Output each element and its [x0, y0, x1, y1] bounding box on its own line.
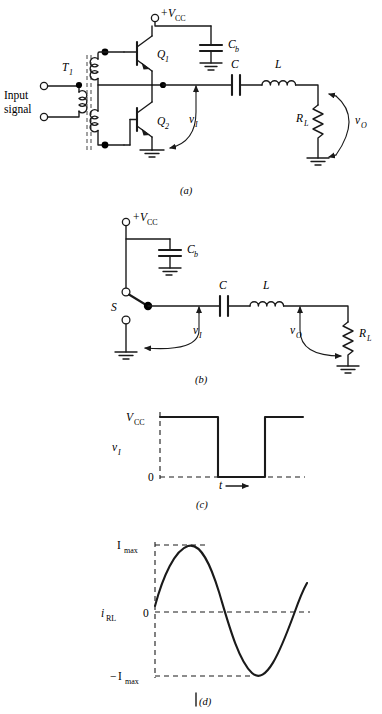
rl-label-a-subscript: L: [303, 119, 309, 128]
vi-arrow-curve-b: [145, 313, 199, 349]
panel-c-y-axis-label-subscript: I: [117, 448, 121, 457]
input-wire-bottom: [48, 111, 79, 117]
panel-c-x-axis-label: t: [219, 479, 223, 491]
vcc-label-a-subscript: CC: [175, 14, 186, 23]
panel-d-imax-tick-label: I: [117, 539, 121, 551]
panel-d: I max 0 − I max i RL (d): [101, 539, 310, 708]
secondary-lower-bottom-lead: [98, 131, 124, 146]
panel-c-waveform: [160, 417, 303, 477]
vo-arrow-bottom-a: [329, 155, 336, 157]
vo-arrow-top-a: [329, 94, 336, 96]
panel-d-y-axis-label-subscript: RL: [106, 614, 116, 623]
rl-ground-symbol-b: [337, 366, 359, 373]
input-signal-line2: signal: [4, 103, 31, 116]
inductor-a: [262, 81, 296, 85]
switch-terminal-lower[interactable]: [122, 316, 130, 324]
bypass-capacitor-b: [159, 239, 181, 275]
panel-b: + V CC C b S: [111, 211, 372, 386]
q2-label-subscript: 2: [165, 122, 169, 131]
q2-ground-symbol: [140, 150, 164, 157]
panel-d-y-axis-label: i: [101, 607, 104, 619]
panel-c: V CC 0 v I t (c): [112, 411, 305, 511]
panel-a: Input signal T 1: [4, 7, 367, 197]
q1-emitter-arrow: [142, 63, 151, 70]
panel-c-zero-tick-label: 0: [148, 471, 154, 483]
panel-d-neg-imax-tick-subscript: max: [125, 677, 139, 686]
switch-label: S: [111, 301, 117, 313]
input-terminal-top[interactable]: [40, 82, 47, 89]
wire-ind-to-rl-a: [296, 85, 318, 105]
input-signal-line1: Input: [4, 89, 29, 102]
l-label-a: L: [274, 58, 281, 70]
panel-a-label: (a): [180, 185, 193, 197]
panel-c-vcc-tick-subscript: CC: [134, 418, 145, 427]
cb-label-b-subscript: b: [194, 250, 198, 259]
coupling-capacitor-a: [232, 75, 240, 95]
vo-arrow-curve-b: [300, 313, 341, 356]
rl-ground-symbol-a: [307, 158, 329, 165]
vcc-label-b-sign: +: [133, 211, 140, 223]
c-label-a: C: [231, 58, 239, 70]
figure-svg: Input signal T 1: [0, 0, 382, 714]
l-label-b: L: [262, 279, 269, 291]
transistor-q1: [124, 26, 152, 85]
bypass-capacitor-a: [200, 26, 222, 70]
panel-d-neg-imax-prefix: −: [110, 670, 117, 682]
vcc-label-b-subscript: CC: [147, 218, 158, 227]
vo-arc-a: [336, 96, 349, 155]
switch-ground-symbol-b: [115, 352, 137, 359]
vcc-terminal-b[interactable]: [122, 218, 129, 225]
vcc-rail-b: [126, 226, 170, 239]
vi-label-b-subscript: I: [198, 331, 202, 340]
q2-emitter-arrow: [142, 129, 151, 136]
vcc-terminal-a[interactable]: [151, 14, 158, 21]
panel-d-label: (d): [199, 696, 212, 708]
cb-label-a-subscript: b: [235, 45, 239, 54]
q1-label-subscript: 1: [165, 55, 169, 64]
vo-label-a-subscript: O: [361, 121, 367, 130]
secondary-centertap-lead: [98, 79, 163, 86]
panel-b-label: (b): [195, 374, 208, 386]
transistor-q2: [124, 85, 152, 150]
input-wire-top: [48, 86, 79, 92]
panel-d-zero-tick-label: 0: [143, 607, 149, 619]
inductor-b: [250, 302, 284, 306]
coupling-capacitor-b: [220, 296, 228, 316]
input-terminal-bottom[interactable]: [40, 113, 47, 120]
vcc-label-a-sign: +: [161, 7, 168, 19]
transformer-secondary-lower-dot: [102, 142, 109, 149]
load-resistor-b: [343, 322, 353, 366]
panel-c-label: (c): [196, 499, 208, 511]
figure-root: Input signal T 1: [0, 0, 382, 714]
c-label-b: C: [219, 279, 227, 291]
switch-blade[interactable]: [129, 295, 147, 306]
rl-label-a: R: [295, 112, 303, 124]
vo-label-b-subscript: O: [296, 331, 302, 340]
wire-ind-to-rl-b: [284, 306, 348, 322]
transformer-primary-winding: [79, 91, 87, 113]
panel-d-imax-tick-subscript: max: [124, 546, 138, 555]
rl-label-b: R: [358, 327, 366, 339]
panel-d-waveform: [155, 546, 307, 676]
rl-label-b-subscript: L: [366, 334, 372, 343]
panel-d-neg-imax-tick-label: I: [118, 670, 122, 682]
vi-label-a-subscript: I: [194, 120, 198, 129]
transformer-primary-dot: [76, 82, 82, 88]
load-resistor-a: [313, 105, 323, 158]
transformer-label-subscript: 1: [69, 68, 73, 77]
